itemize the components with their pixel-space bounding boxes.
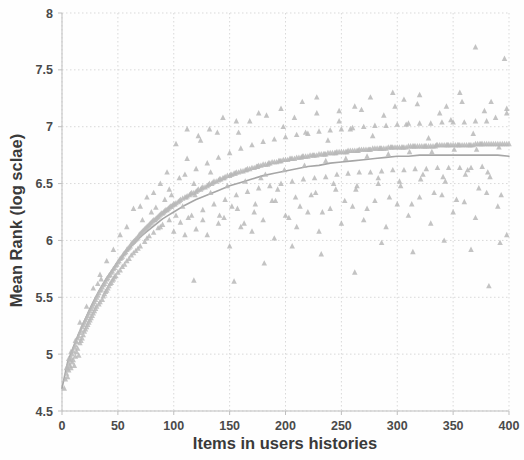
x-axis-tick-labels: 050100150200250300350400 <box>59 419 520 433</box>
svg-text:8: 8 <box>46 7 53 21</box>
svg-text:7: 7 <box>46 120 53 134</box>
svg-text:0: 0 <box>59 419 66 433</box>
y-axis-tick-labels: 4.555.566.577.58 <box>36 7 53 419</box>
chart-figure: 050100150200250300350400 4.555.566.577.5… <box>0 0 524 460</box>
svg-text:4.5: 4.5 <box>36 405 53 419</box>
scatter-points <box>61 44 511 391</box>
svg-text:5: 5 <box>46 348 53 362</box>
svg-text:250: 250 <box>331 419 352 433</box>
svg-text:200: 200 <box>275 419 296 433</box>
axis-lines <box>58 13 509 415</box>
svg-text:150: 150 <box>219 419 240 433</box>
svg-text:350: 350 <box>443 419 464 433</box>
svg-text:100: 100 <box>163 419 184 433</box>
grid-lines <box>62 13 509 411</box>
svg-text:50: 50 <box>111 419 125 433</box>
svg-text:7.5: 7.5 <box>36 63 53 77</box>
scatter-plot-canvas: 050100150200250300350400 4.555.566.577.5… <box>0 0 524 460</box>
svg-text:6.5: 6.5 <box>36 177 53 191</box>
svg-text:6: 6 <box>46 234 53 248</box>
svg-text:400: 400 <box>499 419 520 433</box>
svg-text:5.5: 5.5 <box>36 291 53 305</box>
svg-text:300: 300 <box>387 419 408 433</box>
